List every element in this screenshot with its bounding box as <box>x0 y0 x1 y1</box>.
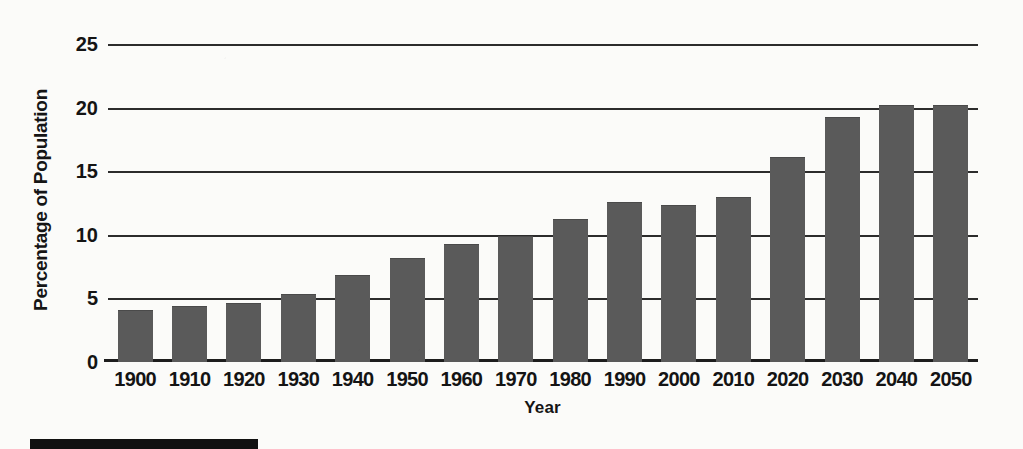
bar-2020 <box>770 157 805 362</box>
x-tick-label: 1920 <box>216 368 272 391</box>
bar-1980 <box>553 219 588 362</box>
bar-2040 <box>879 105 914 362</box>
bar-2030 <box>825 117 860 362</box>
bar-2050 <box>933 105 968 362</box>
bar-2010 <box>716 197 751 362</box>
bar-1970 <box>498 236 533 362</box>
x-tick-label: 1900 <box>107 368 163 391</box>
y-axis-title: Percentage of Population <box>26 40 56 360</box>
x-tick-label: 2000 <box>651 368 707 391</box>
x-tick-label: 1990 <box>597 368 653 391</box>
x-tick-label: 2010 <box>705 368 761 391</box>
bar-1900 <box>118 310 153 362</box>
bar-1930 <box>281 294 316 362</box>
y-tick-label: 15 <box>52 161 98 181</box>
x-tick-label: 1960 <box>433 368 489 391</box>
x-tick-label: 1980 <box>542 368 598 391</box>
bar-2000 <box>661 205 696 362</box>
x-tick-label: 2020 <box>760 368 816 391</box>
x-axis-title: Year <box>0 398 1023 418</box>
x-tick-label: 1970 <box>488 368 544 391</box>
y-tick-label: 20 <box>52 98 98 118</box>
bar-1910 <box>172 306 207 362</box>
gridline-25 <box>108 44 978 46</box>
plot-area <box>108 44 978 362</box>
x-tick-label: 2040 <box>868 368 924 391</box>
x-tick-label: 1940 <box>325 368 381 391</box>
y-tick-label: 10 <box>52 225 98 245</box>
x-tick-label: 2030 <box>814 368 870 391</box>
gridline-20 <box>108 108 978 110</box>
x-tick-label: 1910 <box>162 368 218 391</box>
y-tick-label: 5 <box>52 288 98 308</box>
scan-artifact-black-bar <box>30 439 258 449</box>
bar-1920 <box>226 303 261 363</box>
x-tick-label: 2050 <box>923 368 979 391</box>
x-axis-title-text: Year <box>524 398 561 418</box>
bar-chart-figure: Percentage of Population Year 0510152025… <box>0 0 1023 449</box>
y-axis-title-text: Percentage of Population <box>30 89 52 311</box>
bar-1990 <box>607 202 642 362</box>
bar-1960 <box>444 244 479 362</box>
y-tick-label: 0 <box>52 352 98 372</box>
bar-1940 <box>335 275 370 362</box>
x-tick-label: 1930 <box>270 368 326 391</box>
y-tick-label: 25 <box>52 34 98 54</box>
bar-1950 <box>390 258 425 362</box>
x-tick-label: 1950 <box>379 368 435 391</box>
